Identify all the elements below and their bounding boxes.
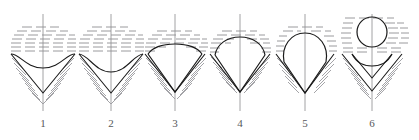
panel-1-liquid-dashes — [11, 27, 76, 51]
panel-6-group — [341, 14, 409, 111]
panel-4-liquid-dashes — [210, 31, 271, 52]
panel-1-caption: 1 — [33, 117, 53, 130]
panel-3-caption: 3 — [165, 117, 185, 130]
panel-2-group — [79, 14, 144, 111]
panel-2-liquid-dashes — [79, 27, 144, 51]
figure-container: 1 2 3 4 5 6 — [0, 0, 419, 140]
six-stage-bubble-detachment-diagram — [0, 0, 419, 140]
panel-3-group — [145, 14, 208, 111]
panel-1-group — [11, 14, 76, 111]
panel-5-group — [276, 14, 337, 111]
panel-6-caption: 6 — [362, 117, 382, 130]
panel-5-caption: 5 — [295, 117, 315, 130]
panel-2-caption: 2 — [101, 117, 121, 130]
panel-4-group — [210, 14, 271, 111]
panel-4-caption: 4 — [230, 117, 250, 130]
